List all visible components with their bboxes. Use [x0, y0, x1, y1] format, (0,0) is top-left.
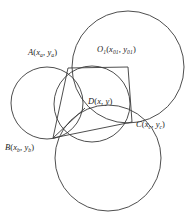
segment-A-O1: [68, 67, 128, 68]
point-label-B: B(xb, yb): [5, 143, 34, 152]
point-label-O1: O1(x01, y01): [97, 45, 136, 54]
segment-B-D: [53, 108, 85, 138]
circle-top-right: [72, 11, 184, 123]
circle-left: [11, 67, 83, 139]
segment-B-A: [53, 68, 68, 138]
point-label-D: D(x, y): [88, 97, 112, 106]
point-label-A: A(xa, ya): [28, 48, 57, 57]
geometry-figure: A(xa, ya) O1(x01, y01) D(x, y) C(xc, yc)…: [0, 0, 189, 224]
geometry-canvas: [0, 0, 189, 224]
point-label-C: C(xc, yc): [136, 120, 165, 129]
